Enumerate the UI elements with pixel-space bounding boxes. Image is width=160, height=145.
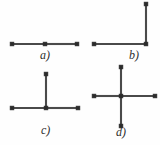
panel-label-c: c) (41, 124, 50, 136)
figure-root: a) b) c) d) (0, 0, 160, 145)
graph-vertex (119, 94, 123, 98)
graph-vertex (144, 42, 148, 46)
graph-drawing-c (6, 68, 84, 116)
graph-panel-c (6, 68, 84, 116)
graph-vertex (92, 94, 96, 98)
graph-panel-b (88, 0, 156, 52)
panel-label-a: a) (40, 49, 50, 61)
graph-vertex (43, 42, 47, 46)
panel-label-d: d) (116, 126, 126, 138)
graph-vertex (92, 42, 96, 46)
graph-panel-d (88, 61, 160, 133)
graph-vertex (44, 106, 48, 110)
graph-vertex (153, 94, 157, 98)
graph-vertex (144, 2, 148, 6)
graph-drawing-b (88, 0, 156, 52)
graph-vertex (75, 42, 79, 46)
graph-vertex (44, 72, 48, 76)
graph-vertex (10, 106, 14, 110)
graph-vertex (76, 106, 80, 110)
panel-label-b: b) (129, 49, 139, 61)
graph-vertex (10, 42, 14, 46)
graph-drawing-d (88, 61, 160, 133)
graph-vertex (119, 65, 123, 69)
